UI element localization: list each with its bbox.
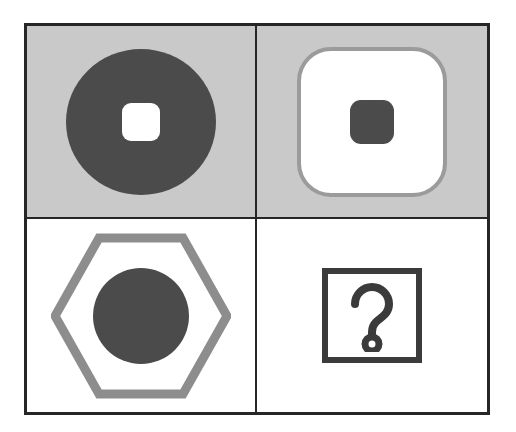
shape-matrix-grid [24,23,490,415]
matrix-cell-bottom-right[interactable] [257,219,487,412]
cell-stage [257,219,487,412]
white-rounded-square-inner-shape [122,103,160,141]
matrix-cell-top-left[interactable] [27,26,257,219]
outlined-square-answer-slot[interactable] [322,268,422,363]
filled-circle-shape [66,49,216,195]
puzzle-image [0,0,516,432]
question-mark-icon [345,280,399,352]
cell-stage [27,219,255,412]
matrix-cell-bottom-left[interactable] [27,219,257,412]
dark-circle-inner-shape [93,268,189,364]
cell-stage [257,26,487,217]
dark-rounded-square-inner-shape [350,100,394,144]
matrix-cell-top-right[interactable] [257,26,487,219]
outlined-rounded-square-shape [297,47,447,197]
hexagon-group [51,230,231,402]
cell-stage [27,26,255,217]
